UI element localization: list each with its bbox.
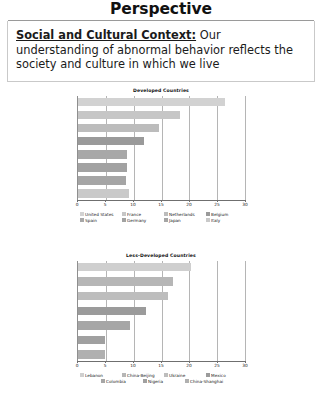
- legend-item[interactable]: United States: [80, 212, 116, 217]
- legend-label: Germany: [127, 218, 146, 223]
- legend-swatch-icon: [164, 212, 168, 216]
- bar-row: [78, 336, 245, 345]
- axis-tick-label: 5: [104, 202, 107, 207]
- bar-row: [78, 263, 245, 272]
- bar-row: [78, 292, 245, 301]
- bar-row: [78, 321, 245, 330]
- legend-swatch-icon: [122, 373, 126, 377]
- legend-swatch-icon: [164, 373, 168, 377]
- bar: [78, 292, 168, 301]
- bar: [78, 189, 129, 198]
- x-axis: 051015202530: [77, 200, 245, 211]
- legend-item[interactable]: France: [122, 212, 158, 217]
- bar-row: [78, 307, 245, 316]
- legend-item[interactable]: Ukraine: [164, 373, 200, 378]
- legend-swatch-icon: [164, 218, 168, 222]
- legend-swatch-icon: [80, 373, 84, 377]
- legend-item[interactable]: Belgium: [206, 212, 242, 217]
- legend-item[interactable]: Lebanon: [80, 373, 116, 378]
- bar-series: [78, 96, 245, 200]
- bar: [78, 111, 180, 120]
- bar-row: [78, 277, 245, 286]
- legend-swatch-icon: [206, 212, 210, 216]
- bar-series: [78, 261, 245, 361]
- legend-label: Spain: [85, 218, 97, 223]
- legend-swatch-icon: [185, 379, 189, 383]
- legend-swatch-icon: [101, 379, 105, 383]
- legend-swatch-icon: [122, 212, 126, 216]
- bar-row: [78, 98, 245, 107]
- bar-row: [78, 111, 245, 120]
- statement-text: Social and Cultural Context: Our underst…: [16, 28, 306, 72]
- bar: [78, 277, 173, 286]
- legend-item[interactable]: Spain: [80, 218, 116, 223]
- axis-tick-label: 5: [104, 363, 107, 368]
- bar: [78, 137, 144, 146]
- legend-item[interactable]: Germany: [122, 218, 158, 223]
- chart-legend: LebanonChina-BeijingUkraineMexicoColombi…: [73, 373, 249, 384]
- plot-area: [77, 261, 245, 361]
- legend-item[interactable]: Nigeria: [143, 379, 179, 384]
- x-axis: 051015202530: [77, 361, 245, 372]
- chart-title: Less-Developed Countries: [73, 253, 249, 258]
- axis-tick-label: 15: [158, 363, 163, 368]
- axis-tick-label: 20: [186, 202, 191, 207]
- bar: [78, 124, 159, 133]
- bar: [78, 321, 130, 330]
- legend-item[interactable]: Italy: [206, 218, 242, 223]
- bar: [78, 307, 146, 316]
- legend-label: Colombia: [106, 379, 126, 384]
- bar: [78, 263, 191, 272]
- legend-label: Belgium: [211, 212, 228, 217]
- plot-area: [77, 96, 245, 200]
- axis-tick-label: 20: [186, 363, 191, 368]
- legend-label: Nigeria: [148, 379, 163, 384]
- legend-swatch-icon: [206, 218, 210, 222]
- legend-label: Netherlands: [169, 212, 195, 217]
- bar-row: [78, 150, 245, 159]
- legend-label: Ukraine: [169, 373, 185, 378]
- axis-tick-label: 25: [214, 202, 219, 207]
- legend-label: Italy: [211, 218, 220, 223]
- legend-label: France: [127, 212, 141, 217]
- legend-item[interactable]: China-Shanghai: [185, 379, 221, 384]
- legend-label: Lebanon: [85, 373, 103, 378]
- bar-row: [78, 163, 245, 172]
- legend-swatch-icon: [143, 379, 147, 383]
- bar: [78, 98, 225, 107]
- statement-box: Social and Cultural Context: Our underst…: [7, 21, 315, 82]
- chart-less-developed-countries: Less-Developed Countries 051015202530 Le…: [73, 253, 249, 384]
- legend-item[interactable]: Japan: [164, 218, 200, 223]
- bar: [78, 150, 127, 159]
- statement-lead: Social and Cultural Context:: [16, 28, 196, 42]
- chart-legend: United StatesFranceNetherlandsBelgiumSpa…: [73, 212, 249, 223]
- axis-tick-label: 0: [76, 202, 79, 207]
- axis-tick-label: 25: [214, 363, 219, 368]
- legend-item[interactable]: Colombia: [101, 379, 137, 384]
- legend-swatch-icon: [122, 218, 126, 222]
- gridline: [245, 261, 246, 361]
- bar: [78, 176, 126, 185]
- legend-item[interactable]: Mexico: [206, 373, 242, 378]
- axis-tick-label: 15: [158, 202, 163, 207]
- bar: [78, 350, 105, 359]
- bar-row: [78, 189, 245, 198]
- slide: Perspective Social and Cultural Context:…: [0, 0, 322, 394]
- legend-label: China-Shanghai: [190, 379, 223, 384]
- legend-swatch-icon: [80, 212, 84, 216]
- chart-title: Developed Countries: [73, 88, 249, 93]
- chart-developed-countries: Developed Countries 051015202530 United …: [73, 88, 249, 223]
- gridline: [245, 96, 246, 200]
- legend-label: Mexico: [211, 373, 226, 378]
- axis-tick-label: 0: [76, 363, 79, 368]
- bar: [78, 163, 127, 172]
- legend-label: Japan: [169, 218, 181, 223]
- axis-tick-label: 30: [242, 363, 247, 368]
- bar-row: [78, 137, 245, 146]
- legend-swatch-icon: [80, 218, 84, 222]
- bar-row: [78, 124, 245, 133]
- legend-item[interactable]: Netherlands: [164, 212, 200, 217]
- legend-swatch-icon: [206, 373, 210, 377]
- axis-tick-label: 10: [130, 363, 135, 368]
- legend-item[interactable]: China-Beijing: [122, 373, 158, 378]
